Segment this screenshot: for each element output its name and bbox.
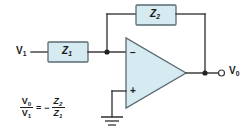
summing-junction-node xyxy=(104,49,109,54)
input-terminal-letter: V xyxy=(16,45,23,56)
z1-subscript: 1 xyxy=(68,50,72,57)
opamp-inverting-sign: − xyxy=(130,48,136,58)
equation-num-right-sub: 2 xyxy=(59,100,62,107)
equation-left-fraction: V0 V1 xyxy=(20,97,33,119)
z2-subscript: 2 xyxy=(156,13,160,20)
circuit-diagram-canvas: V1 V0 Z1 Z2 − + V0 V1 = − Z2 Z1 xyxy=(0,0,250,135)
output-terminal-label: V0 xyxy=(229,66,239,76)
input-terminal-subscript: 1 xyxy=(23,50,27,57)
output-terminal-circle xyxy=(219,70,225,76)
equation-equals-sign: = xyxy=(36,103,41,113)
equation-den-left-sub: 1 xyxy=(28,112,31,119)
equation-denominator-right: Z1 xyxy=(53,109,64,118)
equation-num-left-letter: V xyxy=(22,96,28,106)
equation-den-right-sub: 1 xyxy=(59,112,62,119)
z1-label: Z1 xyxy=(62,46,72,56)
equation-num-left-sub: 0 xyxy=(28,100,31,107)
equation-denominator-left: V1 xyxy=(21,109,32,118)
gain-equation: V0 V1 = − Z2 Z1 xyxy=(20,97,65,119)
equation-negative-sign: − xyxy=(44,103,49,113)
equation-right-fraction: Z2 Z1 xyxy=(52,97,65,119)
equation-numerator-left: V0 xyxy=(21,97,32,106)
z2-label: Z2 xyxy=(150,9,160,19)
equation-numerator-right: Z2 xyxy=(53,97,64,106)
opamp-noninverting-sign: + xyxy=(130,86,136,96)
output-terminal-letter: V xyxy=(229,65,236,76)
output-junction-node xyxy=(202,70,207,75)
equation-den-left-letter: V xyxy=(22,108,28,118)
input-terminal-label: V1 xyxy=(16,46,26,56)
output-terminal-subscript: 0 xyxy=(236,70,240,77)
